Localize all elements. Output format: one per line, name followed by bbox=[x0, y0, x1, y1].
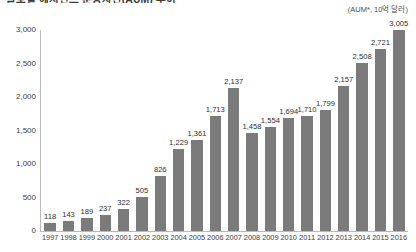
bar bbox=[320, 110, 331, 231]
bar bbox=[393, 30, 404, 231]
bar-chart: 글로벌 헤지펀드 운용자산(AUM) 추이 (AUM*, 10억 달러) 050… bbox=[0, 0, 416, 252]
bar bbox=[191, 140, 202, 231]
bar-value-label: 3,005 bbox=[385, 20, 413, 28]
page-title: 글로벌 헤지펀드 운용자산(AUM) 추이 bbox=[6, 0, 306, 3]
bar-value-label: 1,554 bbox=[256, 117, 284, 125]
y-axis-tick: 2,500 bbox=[0, 60, 36, 68]
bar-value-label: 2,508 bbox=[348, 53, 376, 61]
y-axis-line bbox=[40, 30, 41, 231]
bar bbox=[283, 118, 294, 231]
bar bbox=[63, 221, 74, 231]
y-axis-tick: 1,000 bbox=[0, 160, 36, 168]
bar-value-label: 1,713 bbox=[201, 106, 229, 114]
bar-value-label: 505 bbox=[128, 187, 156, 195]
bar-value-label: 1,229 bbox=[165, 139, 193, 147]
bar bbox=[44, 223, 55, 231]
y-axis-tick: 3,000 bbox=[0, 26, 36, 34]
bar bbox=[338, 86, 349, 231]
y-axis-tick: 1,500 bbox=[0, 127, 36, 135]
bar bbox=[136, 197, 147, 231]
y-axis-tick: 0 bbox=[0, 227, 36, 235]
bar bbox=[265, 127, 276, 231]
bar-value-label: 1,361 bbox=[183, 130, 211, 138]
bar-value-label: 1,799 bbox=[311, 100, 339, 108]
bar bbox=[356, 63, 367, 231]
x-axis-line bbox=[40, 231, 408, 232]
bar-value-label: 322 bbox=[110, 199, 138, 207]
bar bbox=[81, 218, 92, 231]
chart-unit-label: (AUM*, 10억 달러) bbox=[348, 3, 408, 14]
y-axis-tick: 2,000 bbox=[0, 93, 36, 101]
bar-value-label: 2,157 bbox=[330, 76, 358, 84]
bar-value-label: 2,137 bbox=[220, 78, 248, 86]
bar-value-label: 2,721 bbox=[366, 39, 394, 47]
bar bbox=[210, 116, 221, 231]
bar bbox=[375, 49, 386, 231]
x-axis-tick: 2016 bbox=[388, 234, 410, 241]
bar bbox=[228, 88, 239, 231]
bar bbox=[173, 149, 184, 231]
bar-value-label: 826 bbox=[146, 166, 174, 174]
bar bbox=[301, 116, 312, 231]
y-axis-tick: 500 bbox=[0, 194, 36, 202]
bar bbox=[155, 176, 166, 231]
bar bbox=[246, 133, 257, 231]
bar bbox=[100, 215, 111, 231]
bar bbox=[118, 209, 129, 231]
